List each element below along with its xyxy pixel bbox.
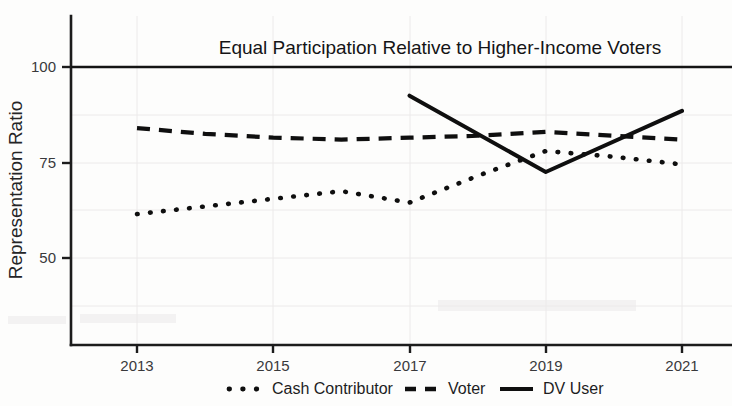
legend-label-dv-user: DV User	[543, 380, 604, 397]
equal-participation-reference: Equal Participation Relative to Higher-I…	[71, 37, 732, 67]
x-tick-label-2015: 2015	[256, 357, 289, 374]
chart-figure: 100 75 50 Representation Ratio 2013 2015…	[0, 0, 732, 406]
x-tick-label-2013: 2013	[120, 357, 153, 374]
x-tick-label-2017: 2017	[393, 357, 426, 374]
legend-label-cash-contributor: Cash Contributor	[272, 380, 394, 397]
gridlines	[71, 16, 732, 344]
legend-label-voter: Voter	[448, 380, 486, 397]
legend-item-voter: Voter	[405, 380, 486, 397]
representation-ratio-chart: 100 75 50 Representation Ratio 2013 2015…	[0, 0, 732, 406]
x-tick-label-2021: 2021	[665, 357, 698, 374]
y-tick-label-50: 50	[39, 249, 56, 266]
y-tick-label-75: 75	[39, 154, 56, 171]
legend-item-cash-contributor: Cash Contributor	[229, 380, 394, 397]
y-axis: 100 75 50 Representation Ratio	[5, 16, 71, 345]
x-axis: 2013 2015 2017 2019 2021	[71, 345, 732, 374]
x-tick-label-2019: 2019	[529, 357, 562, 374]
y-axis-title: Representation Ratio	[5, 101, 26, 280]
legend-item-dv-user: DV User	[500, 380, 604, 397]
equal-participation-annotation: Equal Participation Relative to Higher-I…	[219, 37, 662, 58]
chart-legend: Cash Contributor Voter DV User	[229, 380, 604, 397]
y-tick-label-100: 100	[31, 58, 56, 75]
